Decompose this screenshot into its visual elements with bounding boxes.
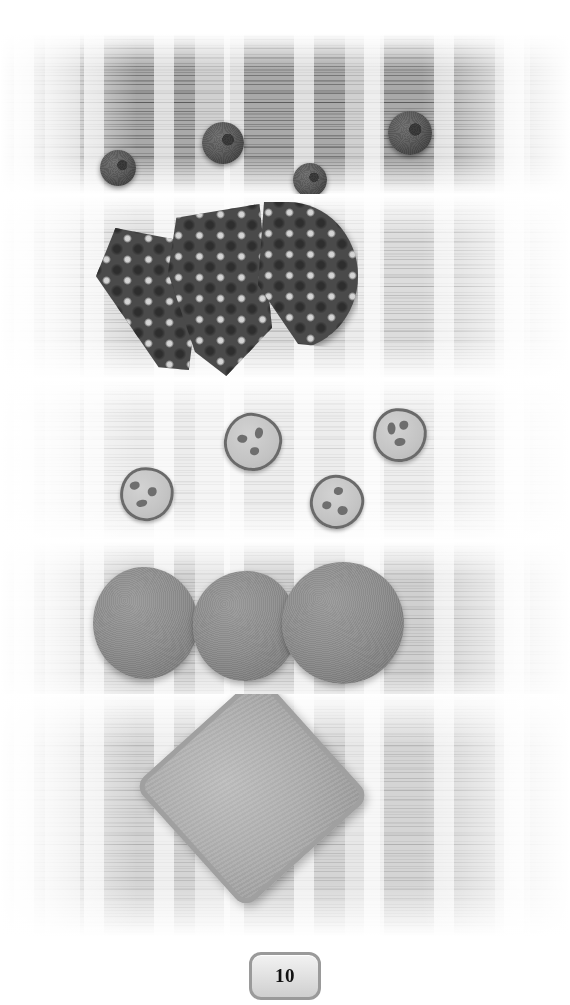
chocolate-chip bbox=[136, 499, 148, 507]
chocolate-chip bbox=[399, 420, 409, 430]
chocolate-chip bbox=[337, 505, 348, 516]
chocolate-chip bbox=[147, 487, 157, 497]
page-number-label: 10 bbox=[275, 965, 295, 987]
chocolate-chip bbox=[250, 447, 260, 456]
pom-pom bbox=[388, 111, 432, 155]
photo-felt-circles bbox=[0, 542, 570, 710]
photo-felt-pouch-square bbox=[0, 694, 570, 936]
pom-pom bbox=[202, 122, 244, 164]
chocolate-chip bbox=[237, 434, 248, 443]
chocolate-chip bbox=[322, 501, 332, 510]
chocolate-chip bbox=[333, 486, 343, 495]
felt-circle bbox=[282, 562, 404, 684]
pom-pom bbox=[293, 163, 327, 194]
page-number-badge: 10 bbox=[249, 952, 321, 1000]
pom-pom bbox=[100, 150, 136, 186]
chocolate-chip bbox=[394, 438, 406, 447]
felt-circle bbox=[93, 567, 198, 679]
page-canvas: 10 bbox=[0, 0, 570, 1005]
chocolate-chip bbox=[387, 422, 396, 435]
chocolate-chip bbox=[129, 481, 140, 490]
edge-fade bbox=[0, 380, 570, 540]
chocolate-chip bbox=[254, 427, 263, 439]
edge-fade bbox=[0, 34, 570, 194]
photo-patterned-fabric-wedges bbox=[0, 196, 570, 378]
photo-chip-discs-on-light-wood bbox=[0, 380, 570, 540]
photo-pom-poms-on-dark-wood bbox=[0, 34, 570, 194]
